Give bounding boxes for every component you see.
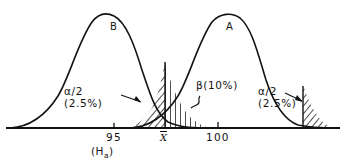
figure-canvas	[0, 0, 344, 167]
axis-label-100: 100	[206, 132, 230, 143]
xbar-overline	[160, 131, 167, 132]
curve-label-b: B	[110, 22, 117, 32]
label-beta: β(10%)	[196, 80, 238, 91]
label-alpha-right-line1: α/2	[258, 85, 277, 97]
curve-label-a: A	[226, 22, 233, 32]
label-alpha-left-line2: (2.5%)	[64, 98, 102, 109]
label-alternative-hypothesis: (Ha)	[91, 146, 114, 160]
leader-line-beta	[191, 96, 200, 108]
label-alpha-left: α/2 (2.5%)	[64, 86, 102, 108]
hyp-close-paren: )	[109, 145, 114, 157]
label-alpha-right-line2: (2.5%)	[258, 98, 296, 109]
axis-label-xbar: X	[160, 131, 167, 143]
statistics-figure: B A α/2 (2.5%) β(10%) α/2 (2.5%) 95 X 10…	[0, 0, 344, 167]
axis-label-95: 95	[106, 132, 122, 143]
label-beta-line1: β(10%)	[196, 79, 238, 91]
label-alpha-left-line1: α/2	[64, 85, 83, 97]
region-alpha-right	[298, 80, 342, 132]
label-alpha-right: α/2 (2.5%)	[258, 86, 296, 108]
region-beta	[160, 55, 218, 133]
hyp-open-paren: (H	[91, 145, 104, 157]
